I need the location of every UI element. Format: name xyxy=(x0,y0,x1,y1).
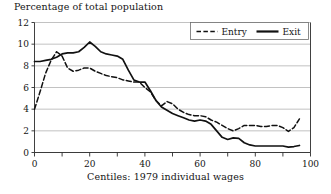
x-tick-label: 60 xyxy=(194,159,206,169)
grid-lines xyxy=(35,23,311,153)
series-line-entry xyxy=(35,52,300,132)
x-tick-label: 40 xyxy=(139,159,151,169)
y-tick-label: 6 xyxy=(23,83,29,93)
line-chart: 024681012 020406080100 EntryExit xyxy=(0,0,331,194)
chart-figure: Percentage of total population 024681012… xyxy=(0,0,331,194)
chart-legend: EntryExit xyxy=(191,23,309,40)
series-line-exit xyxy=(35,42,300,147)
y-axis: 024681012 xyxy=(18,18,35,158)
x-tick-label: 20 xyxy=(84,159,96,169)
x-tick-label: 0 xyxy=(32,159,38,169)
y-tick-label: 10 xyxy=(18,39,30,49)
y-tick-label: 4 xyxy=(23,104,29,114)
x-axis-label: Centiles: 1979 individual wages xyxy=(0,171,331,182)
y-tick-label: 12 xyxy=(18,18,29,28)
legend-label-entry: Entry xyxy=(222,27,248,37)
x-tick-label: 100 xyxy=(302,159,319,169)
series-layer xyxy=(35,42,300,147)
x-tick-label: 80 xyxy=(250,159,262,169)
y-tick-label: 0 xyxy=(23,148,29,158)
y-tick-label: 2 xyxy=(23,126,29,136)
y-tick-label: 8 xyxy=(23,61,29,71)
legend-label-exit: Exit xyxy=(283,27,302,37)
